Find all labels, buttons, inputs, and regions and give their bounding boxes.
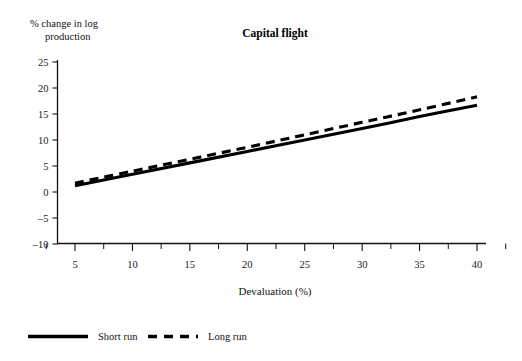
x-tick-label: 5 bbox=[72, 259, 77, 270]
y-tick-label: 10 bbox=[38, 135, 49, 146]
chart-background bbox=[0, 0, 522, 361]
x-tick-label: 25 bbox=[299, 259, 310, 270]
x-tick-label: 30 bbox=[357, 259, 368, 270]
x-tick-label: 15 bbox=[185, 259, 196, 270]
y-tick-label: 25 bbox=[38, 57, 49, 68]
capital-flight-line-chart: Capital flight % change in log productio… bbox=[0, 0, 522, 361]
chart-title: Capital flight bbox=[242, 27, 308, 40]
x-tick-label: 35 bbox=[414, 259, 425, 270]
x-axis-title: Devaluation (%) bbox=[239, 285, 312, 298]
y-tick-label: 20 bbox=[38, 83, 49, 94]
y-tick-label: –5 bbox=[37, 213, 49, 224]
x-tick-label: 40 bbox=[472, 259, 483, 270]
x-tick-label: 20 bbox=[242, 259, 253, 270]
legend-label-long-run: Long run bbox=[208, 331, 248, 342]
legend-label-short-run: Short run bbox=[98, 331, 138, 342]
y-axis-label-line1: % change in log bbox=[30, 18, 99, 29]
y-tick-label: 5 bbox=[43, 161, 48, 172]
y-tick-label: 15 bbox=[38, 109, 49, 120]
chart-figure: Capital flight % change in log productio… bbox=[0, 0, 522, 361]
y-axis-label-line2: production bbox=[45, 31, 91, 42]
x-tick-label: 10 bbox=[127, 259, 138, 270]
y-tick-label: 0 bbox=[43, 187, 48, 198]
